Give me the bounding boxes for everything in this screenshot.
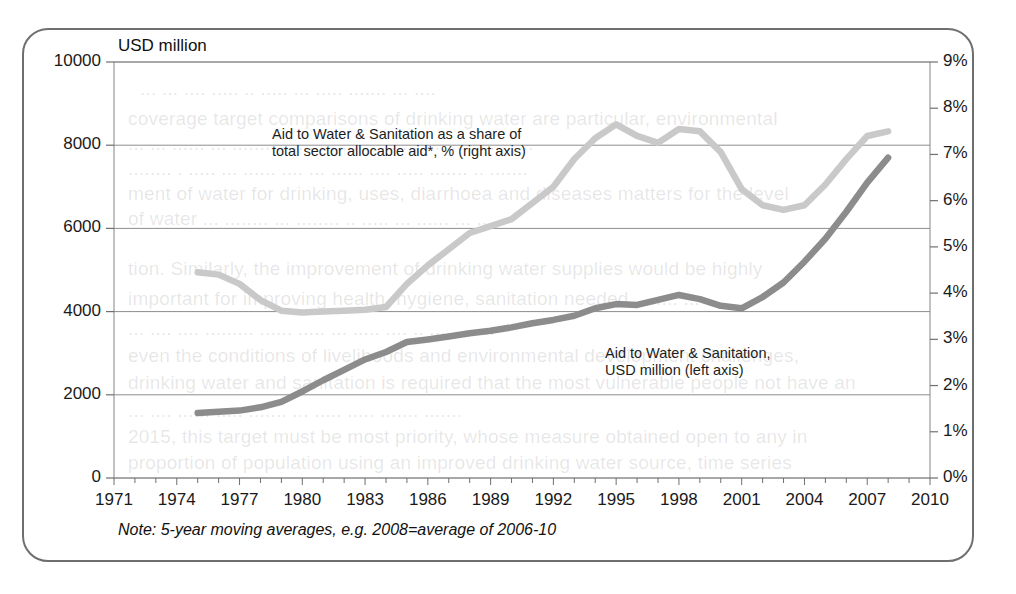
series-annotation-usd-line2: USD million (left axis): [605, 362, 771, 379]
y-axis-label-left: 8000: [19, 134, 101, 154]
y-axis-label-left: 0: [19, 467, 101, 487]
series-annotation-share-line1: Aid to Water & Sanitation as a share of: [272, 126, 526, 143]
series-annotation-usd-line1: Aid to Water & Sanitation,: [605, 345, 771, 362]
x-axis-label: 1986: [398, 490, 458, 510]
y-axis-label-left: 6000: [19, 217, 101, 237]
x-axis-label: 1974: [147, 490, 207, 510]
x-axis-label: 2001: [712, 490, 772, 510]
x-axis-label: 1992: [523, 490, 583, 510]
y-axis-label-right: 0%: [943, 467, 993, 487]
chart-note: Note: 5-year moving averages, e.g. 2008=…: [118, 521, 556, 539]
x-axis-label: 1998: [649, 490, 709, 510]
series-annotation-share: Aid to Water & Sanitation as a share of …: [272, 126, 526, 160]
y-axis-label-right: 5%: [943, 236, 993, 256]
y-axis-label-left: 2000: [19, 384, 101, 404]
y-axis-label-right: 4%: [943, 282, 993, 302]
plot-border: [114, 62, 930, 478]
y-axis-label-right: 2%: [943, 375, 993, 395]
y-axis-label-right: 8%: [943, 97, 993, 117]
y-axis-label-right: 7%: [943, 143, 993, 163]
left-axis-title: USD million: [118, 36, 207, 56]
chart-container: USD million 02000400060008000100000%1%2%…: [0, 0, 1016, 594]
y-axis-label-right: 3%: [943, 328, 993, 348]
series-annotation-usd: Aid to Water & Sanitation, USD million (…: [605, 345, 771, 379]
y-axis-label-right: 1%: [943, 421, 993, 441]
x-axis-label: 1989: [461, 490, 521, 510]
y-axis-label-right: 6%: [943, 190, 993, 210]
x-axis-label: 2004: [774, 490, 834, 510]
x-axis-label: 1995: [586, 490, 646, 510]
y-axis-label-left: 4000: [19, 301, 101, 321]
x-axis-label: 1980: [272, 490, 332, 510]
series-annotation-share-line2: total sector allocable aid*, % (right ax…: [272, 143, 526, 160]
x-axis-label: 2010: [900, 490, 960, 510]
x-axis-label: 1971: [84, 490, 144, 510]
y-axis-label-right: 9%: [943, 51, 993, 71]
x-axis-label: 2007: [837, 490, 897, 510]
x-axis-label: 1983: [335, 490, 395, 510]
x-axis-label: 1977: [210, 490, 270, 510]
y-axis-label-left: 10000: [19, 51, 101, 71]
